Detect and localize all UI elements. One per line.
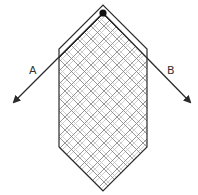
arrow-b-label: B [167, 65, 175, 76]
hexagon-diagram [0, 0, 198, 195]
pivot-dot [99, 9, 106, 16]
diagram-canvas: A B [0, 0, 198, 195]
hatch-fill [50, 10, 160, 195]
arrow-a-label: A [29, 65, 37, 76]
